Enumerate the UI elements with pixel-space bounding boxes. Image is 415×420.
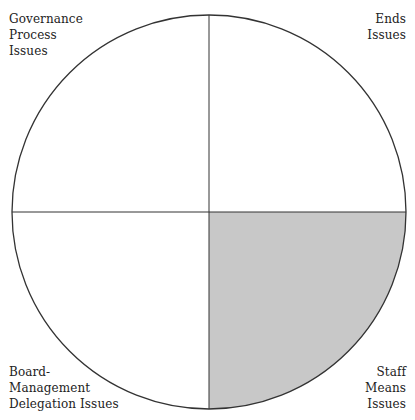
label-line: Means xyxy=(365,380,406,396)
label-line: Issues xyxy=(367,27,406,43)
label-line: Staff xyxy=(365,364,406,380)
label-board-management-delegation-issues: Board- Management Delegation Issues xyxy=(9,364,119,412)
label-line: Issues xyxy=(365,396,406,412)
quadrant-circle-diagram xyxy=(0,0,415,420)
label-line: Delegation Issues xyxy=(9,396,119,412)
label-line: Management xyxy=(9,380,119,396)
label-governance-process-issues: Governance Process Issues xyxy=(9,11,83,59)
label-line: Process xyxy=(9,27,83,43)
label-line: Issues xyxy=(9,43,83,59)
label-line: Ends xyxy=(367,11,406,27)
label-staff-means-issues: Staff Means Issues xyxy=(365,364,406,412)
label-ends-issues: Ends Issues xyxy=(367,11,406,43)
label-line: Governance xyxy=(9,11,83,27)
label-line: Board- xyxy=(9,364,119,380)
